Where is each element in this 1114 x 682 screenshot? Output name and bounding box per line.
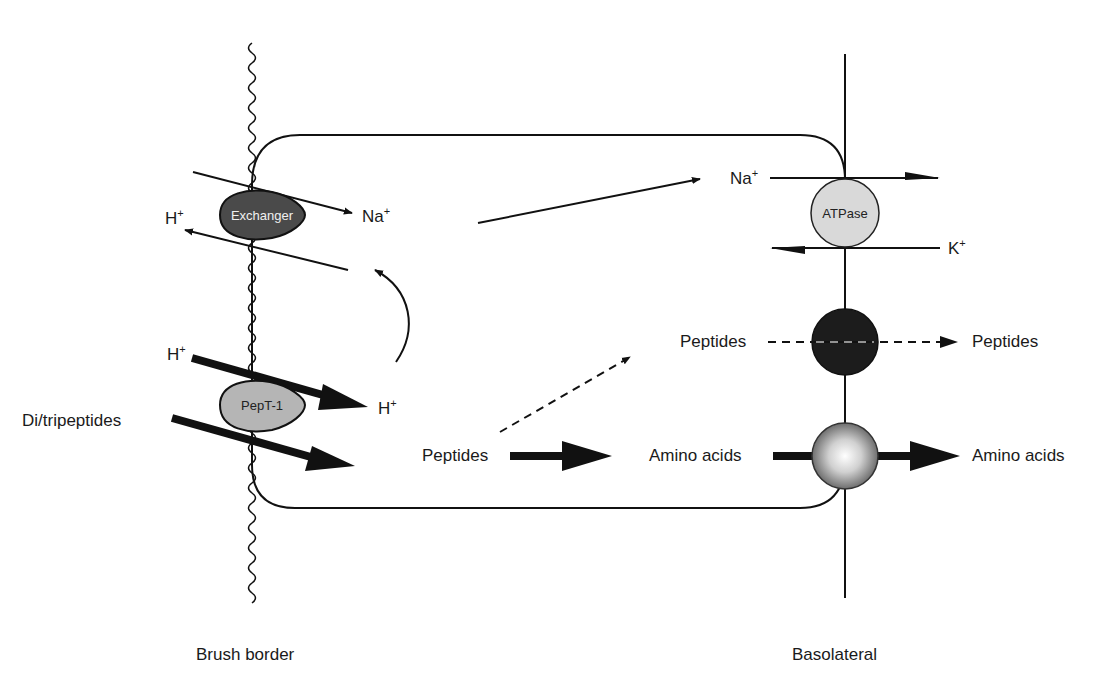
- na-ion-atpase-label: Na+: [730, 167, 758, 188]
- peptides-baso-in-label: Peptides: [680, 332, 746, 351]
- atpase-label: ATPase: [822, 206, 867, 221]
- peptides-cell-label: Peptides: [422, 446, 488, 465]
- basolateral-label: Basolateral: [792, 645, 877, 664]
- h-ion-pept-in-label: H+: [167, 343, 186, 364]
- h-ion-pept-out-label: H+: [378, 397, 397, 418]
- peptide-cotransport-arrowhead: [305, 446, 355, 471]
- k-ion-atpase-label: K+: [948, 237, 966, 258]
- brush-border-membrane: [249, 43, 256, 603]
- peptides-baso-out-label: Peptides: [972, 332, 1038, 351]
- h-ion-exchanger-label: H+: [165, 207, 184, 228]
- peptides-hydrolysis-arrowhead: [562, 441, 612, 471]
- amino-acids-out-label: Amino acids: [972, 446, 1065, 465]
- h-cotransport-arrowhead: [318, 384, 368, 410]
- na-ion-exchanger-label: Na+: [362, 205, 390, 226]
- h-recycle-arrow: [375, 270, 409, 362]
- na-to-atpase-arrow: [478, 179, 700, 223]
- amino-acids-in-label: Amino acids: [649, 446, 742, 465]
- transport-diagram: Exchanger H+ Na+ PepT-1 H+ H+ Di/tripept…: [0, 0, 1114, 682]
- amino-acid-carrier: [812, 423, 878, 489]
- amino-acids-out-arrowhead: [910, 441, 960, 471]
- brush-border-label: Brush border: [196, 645, 295, 664]
- peptides-baso-arrowhead: [940, 336, 958, 348]
- di-tripeptides-label: Di/tripeptides: [22, 411, 121, 430]
- pept1-label: PepT-1: [241, 398, 283, 413]
- exchanger-label: Exchanger: [231, 208, 294, 223]
- peptides-dashed-arrow: [500, 357, 630, 432]
